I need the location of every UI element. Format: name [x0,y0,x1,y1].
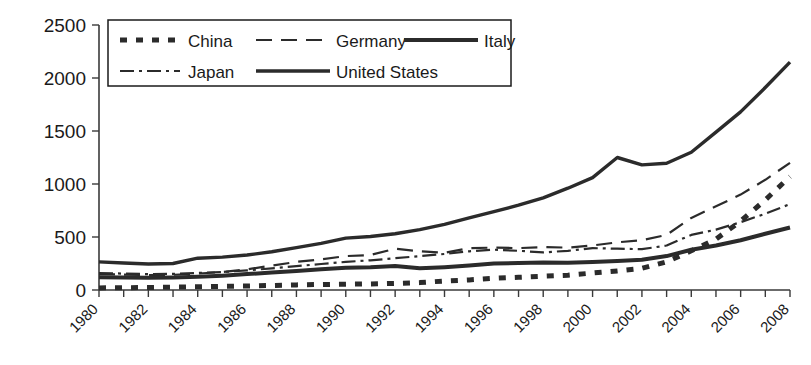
x-tick-label: 1984 [164,300,200,336]
x-tick-label: 2006 [707,300,743,336]
series-line-china [99,177,790,288]
chart-container: 05001000150020002500 1980198219841986198… [0,0,811,365]
x-tick-label: 1996 [460,300,496,336]
x-tick-label: 2002 [608,300,644,336]
legend-label-japan: Japan [188,63,234,82]
x-tick-label: 2008 [757,300,793,336]
y-tick-label: 0 [75,280,86,301]
legend-label-china: China [188,32,233,51]
legend-label-united-states: United States [336,63,438,82]
chart-legend: ChinaGermanyItalyJapanUnited States [108,20,516,86]
series-line-united-states [99,62,790,264]
series-line-italy [99,228,790,278]
x-tick-label: 1990 [312,300,348,336]
x-axis: 1980198219841986198819901992199419961998… [66,290,793,336]
y-tick-label: 500 [54,227,86,248]
y-tick-label: 1000 [44,174,86,195]
x-tick-label: 1986 [214,300,250,336]
y-tick-label: 1500 [44,121,86,142]
legend-box [108,20,511,86]
y-tick-label: 2500 [44,15,86,36]
x-tick-label: 1982 [115,300,151,336]
x-tick-label: 1994 [411,300,447,336]
x-tick-label: 2000 [559,300,595,336]
x-tick-label: 1992 [362,300,398,336]
x-tick-label: 1998 [510,300,546,336]
y-axis: 05001000150020002500 [44,15,99,301]
legend-label-germany: Germany [336,32,406,51]
x-tick-label: 1980 [66,300,102,336]
line-chart: 05001000150020002500 1980198219841986198… [0,0,811,365]
x-tick-label: 2004 [658,300,694,336]
series-line-japan [99,204,790,274]
legend-label-italy: Italy [484,32,516,51]
series-lines [99,62,790,288]
y-tick-label: 2000 [44,68,86,89]
x-tick-label: 1988 [263,300,299,336]
